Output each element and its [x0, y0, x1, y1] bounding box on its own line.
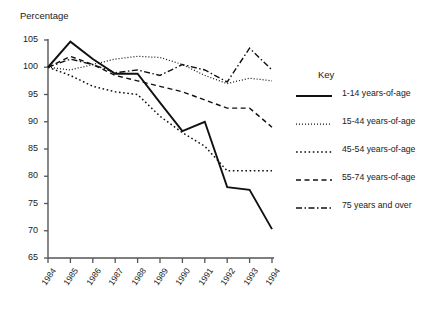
legend-line-sample [296, 150, 332, 152]
series-line-3 [48, 56, 272, 127]
legend-entry: 75 years and over [296, 200, 424, 214]
series-line-2 [48, 67, 272, 171]
data-series-group [48, 42, 272, 229]
legend-entry-label: 55-74 years-of-age [342, 172, 415, 182]
legend-line-sample [296, 206, 332, 208]
legend-title: Key [318, 69, 334, 80]
y-axis-tick-label: 75 [14, 198, 38, 208]
legend-line-sample [296, 122, 332, 124]
series-line-0 [48, 42, 272, 229]
legend-entry: 15-44 years-of-age [296, 116, 424, 130]
line-chart-figure: Percentage 10510095908580757065 19841985… [0, 0, 427, 321]
legend-entry: 45-54 years-of-age [296, 144, 424, 158]
axes [44, 39, 274, 263]
legend-entry: 55-74 years-of-age [296, 172, 424, 186]
y-axis-tick-label: 85 [14, 143, 38, 153]
y-axis-tick-label: 100 [14, 61, 38, 71]
y-axis-tick-label: 95 [14, 89, 38, 99]
legend-line-sample [296, 94, 332, 96]
y-axis-title: Percentage [20, 10, 69, 21]
legend-entry-label: 45-54 years-of-age [342, 144, 415, 154]
legend-entry: 1-14 years-of-age [296, 88, 424, 102]
legend-entry-label: 15-44 years-of-age [342, 116, 415, 126]
y-axis-tick-label: 65 [14, 252, 38, 262]
y-axis-tick-label: 80 [14, 170, 38, 180]
legend-line-sample [296, 178, 332, 180]
y-axis-tick-label: 105 [14, 34, 38, 44]
y-axis-tick-label: 70 [14, 225, 38, 235]
legend-entry-label: 75 years and over [342, 200, 412, 210]
legend-entry-label: 1-14 years-of-age [342, 88, 411, 98]
y-axis-tick-label: 90 [14, 116, 38, 126]
series-line-4 [48, 48, 272, 82]
